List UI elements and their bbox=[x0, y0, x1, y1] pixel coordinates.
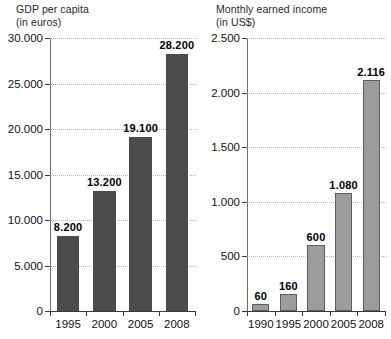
chart-title-gdp-line2: (in euros) bbox=[16, 16, 61, 28]
chart-title-income-line1: Monthly earned income bbox=[216, 3, 327, 15]
bar-slot-gdp: 19.100 bbox=[123, 38, 159, 311]
chart-panel-monthly-earned-income: Monthly earned income (in US$) 05001.000… bbox=[195, 0, 391, 339]
bar-value-label-gdp: 13.200 bbox=[87, 176, 122, 188]
chart-title-gdp-line1: GDP per capita bbox=[16, 3, 89, 15]
bar-slot-gdp: 8.200 bbox=[50, 38, 86, 311]
plot-area-income: 05001.0001.5002.0002.500 601606001.0802.… bbox=[247, 38, 385, 311]
x-axis-labels-income: 19901995200020052008 bbox=[247, 318, 385, 334]
bar-gdp-2005: 19.100 bbox=[129, 137, 151, 311]
y-tick-label-income: 0 bbox=[234, 305, 240, 317]
y-tick-label-income: 1.500 bbox=[211, 141, 240, 153]
y-tick-label-gdp: 5.000 bbox=[14, 260, 43, 272]
y-tick-label-income: 1.000 bbox=[211, 196, 240, 208]
x-tick-income bbox=[357, 311, 358, 316]
bar-value-label-income: 1.080 bbox=[329, 179, 358, 191]
x-axis-label-income: 2000 bbox=[303, 318, 329, 330]
bar-value-label-income: 60 bbox=[254, 290, 267, 302]
x-tick-income bbox=[330, 311, 331, 316]
x-axis-labels-gdp: 1995200020052008 bbox=[50, 318, 195, 334]
bar-slot-income: 60 bbox=[247, 38, 275, 311]
bar-income-1995: 160 bbox=[280, 294, 297, 311]
x-tick-income bbox=[247, 311, 248, 316]
bar-slot-income: 600 bbox=[302, 38, 330, 311]
x-tick-income bbox=[385, 311, 386, 316]
x-tick-gdp bbox=[123, 311, 124, 316]
baseline-income bbox=[247, 311, 385, 312]
y-tick-label-income: 2.500 bbox=[211, 32, 240, 44]
y-tick-label-gdp: 25.000 bbox=[8, 78, 43, 90]
bar-value-label-income: 600 bbox=[307, 231, 326, 243]
bar-value-label-gdp: 19.100 bbox=[123, 122, 158, 134]
plot-area-gdp: 05.00010.00015.00020.00025.00030.000 8.2… bbox=[50, 38, 195, 311]
bar-income-2008: 2.116 bbox=[363, 80, 380, 311]
bars-income: 601606001.0802.116 bbox=[247, 38, 385, 311]
bar-slot-income: 1.080 bbox=[330, 38, 358, 311]
bar-slot-income: 160 bbox=[275, 38, 303, 311]
y-tick-label-gdp: 30.000 bbox=[8, 32, 43, 44]
bar-income-1990: 60 bbox=[252, 304, 269, 311]
y-tick-label-gdp: 20.000 bbox=[8, 123, 43, 135]
y-tick-label-gdp: 10.000 bbox=[8, 214, 43, 226]
bar-gdp-1995: 8.200 bbox=[57, 236, 79, 311]
x-axis-label-income: 1990 bbox=[248, 318, 274, 330]
x-tick-income bbox=[275, 311, 276, 316]
y-tick-label-income: 500 bbox=[221, 250, 240, 262]
x-axis-label-gdp: 2008 bbox=[164, 318, 190, 330]
x-axis-label-income: 2008 bbox=[358, 318, 384, 330]
bar-value-label-income: 160 bbox=[279, 280, 298, 292]
x-axis-label-gdp: 1995 bbox=[55, 318, 81, 330]
x-tick-gdp bbox=[50, 311, 51, 316]
x-tick-gdp bbox=[86, 311, 87, 316]
y-tick-label-gdp: 0 bbox=[37, 305, 43, 317]
chart-title-income-line2: (in US$) bbox=[216, 16, 255, 28]
bar-value-label-gdp: 8.200 bbox=[54, 221, 83, 233]
y-tick-label-income: 2.000 bbox=[211, 87, 240, 99]
y-tick-label-gdp: 15.000 bbox=[8, 169, 43, 181]
chart-figure: GDP per capita (in euros) 05.00010.00015… bbox=[0, 0, 391, 339]
bar-value-label-income: 2.116 bbox=[357, 66, 385, 78]
x-axis-label-income: 2005 bbox=[331, 318, 357, 330]
bar-slot-gdp: 28.200 bbox=[159, 38, 195, 311]
x-axis-label-gdp: 2000 bbox=[92, 318, 118, 330]
chart-panel-gdp-per-capita: GDP per capita (in euros) 05.00010.00015… bbox=[0, 0, 196, 339]
bar-slot-gdp: 13.200 bbox=[86, 38, 122, 311]
bar-gdp-2008: 28.200 bbox=[166, 54, 188, 311]
bar-slot-income: 2.116 bbox=[357, 38, 385, 311]
bar-value-label-gdp: 28.200 bbox=[159, 39, 194, 51]
x-tick-income bbox=[302, 311, 303, 316]
x-axis-label-gdp: 2005 bbox=[128, 318, 154, 330]
chart-title-gdp: GDP per capita (in euros) bbox=[16, 3, 89, 28]
x-axis-label-income: 1995 bbox=[276, 318, 302, 330]
bar-income-2000: 600 bbox=[307, 245, 324, 311]
bars-gdp: 8.20013.20019.10028.200 bbox=[50, 38, 195, 311]
bar-gdp-2000: 13.200 bbox=[93, 191, 115, 311]
bar-income-2005: 1.080 bbox=[335, 193, 352, 311]
chart-title-income: Monthly earned income (in US$) bbox=[216, 3, 327, 28]
x-tick-gdp bbox=[159, 311, 160, 316]
